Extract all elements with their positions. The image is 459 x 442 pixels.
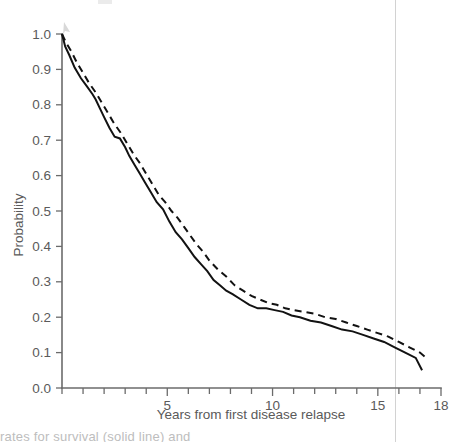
- y-tick-label: 0.0: [32, 381, 51, 396]
- y-tick-label: 0.9: [32, 62, 51, 77]
- plot-axes: [62, 34, 441, 388]
- y-tick-label: 0.1: [32, 345, 51, 360]
- y-tick-label: 0.4: [32, 239, 51, 254]
- y-axis-ticks: 0.00.10.20.30.40.50.60.70.80.91.0: [32, 27, 62, 396]
- scan-smudge: [63, 22, 70, 35]
- chart-series-group: [62, 34, 426, 370]
- y-axis-title: Probability: [11, 193, 26, 256]
- y-tick-label: 0.3: [32, 274, 51, 289]
- chart-canvas: 0.00.10.20.30.40.50.60.70.80.91.0 510151…: [0, 0, 459, 442]
- y-tick-label: 0.8: [32, 97, 51, 112]
- x-tick-label: 15: [370, 398, 385, 413]
- y-tick-label: 1.0: [32, 27, 51, 42]
- series-dashed-path: [62, 34, 426, 358]
- series-solid-path: [62, 34, 422, 370]
- figure-caption-cutoff: rates for survival (solid line) and: [0, 431, 459, 442]
- y-tick-label: 0.5: [32, 204, 51, 219]
- y-tick-label: 0.7: [32, 133, 51, 148]
- x-axis-title: Years from first disease relapse: [157, 407, 346, 422]
- y-tick-label: 0.6: [32, 168, 51, 183]
- y-tick-label: 0.2: [32, 310, 51, 325]
- scan-smudge-top: [98, 0, 112, 4]
- figure-caption-text: rates for survival (solid line) and: [0, 431, 459, 442]
- survival-curve-figure: 0.00.10.20.30.40.50.60.70.80.91.0 510151…: [0, 0, 459, 442]
- x-tick-label: 18: [433, 398, 448, 413]
